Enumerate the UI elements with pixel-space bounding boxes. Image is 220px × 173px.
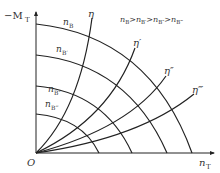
- efficiency-label-eta1: η′: [133, 37, 142, 48]
- y-axis-label-sub: T: [25, 16, 30, 24]
- speed-label-nB1-sub: B′: [62, 49, 68, 56]
- x-axis-label-sub: T: [206, 163, 211, 171]
- speed-label-nB-sub: B: [69, 22, 74, 29]
- efficiency-label-eta3: η‴: [192, 84, 204, 95]
- y-axis-label: −M: [4, 10, 23, 21]
- x-axis-label: n: [199, 157, 205, 168]
- origin-label: O: [27, 157, 35, 168]
- efficiency-curve-eta2: [36, 76, 166, 153]
- efficiency-label-eta: η: [88, 8, 94, 19]
- speed-relation-legend: nB>nB′>nB″>nB‴: [120, 15, 183, 25]
- efficiency-label-eta2: η″: [164, 65, 174, 76]
- speed-label-nB3-sub: B‴: [51, 104, 59, 111]
- diagram-canvas: −M T n T O n B n B′ n B″ n B‴ η η′ η″ η‴…: [0, 0, 220, 173]
- speed-label-nB2-sub: B″: [54, 89, 61, 96]
